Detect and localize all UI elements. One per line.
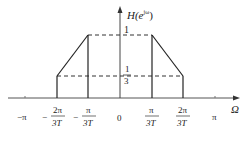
level-1-label: 1 [124,24,129,35]
tick-label-neg-2pi-3T-den: 3T [51,118,63,128]
tick-label-2pi-3T-den: 3T [176,118,188,128]
frequency-response-diagram: H(ejω) 1 1 3 Ω −π − 2π 3T − π 3T 0 π 3T … [0,0,245,146]
tick-label-pi: π [212,112,217,122]
tick-label-neg-pi-3T-num: π [86,105,91,115]
tick-label-neg-pi-3T-den: 3T [82,118,94,128]
tick-label-2pi-3T-num: 2π [178,105,188,115]
tick-label-pi-3T-num: π [149,105,154,115]
one-third-denominator: 3 [124,76,129,86]
tick-label-neg-2pi-3T-sign: − [42,112,47,122]
tick-label-neg-pi: −π [17,112,27,122]
slope-right [152,35,183,76]
tick-label-neg-2pi-3T-num: 2π [53,105,63,115]
slope-left [57,35,88,76]
y-axis-arrow-icon [118,6,123,13]
x-axis-label: Ω [231,103,239,115]
one-third-numerator: 1 [125,64,130,74]
x-axis-arrow-icon [233,96,240,101]
tick-label-neg-pi-3T-sign: − [73,112,78,122]
tick-label-zero: 0 [117,113,122,123]
tick-label-pi-3T-den: 3T [145,118,157,128]
y-axis-label: H(ejω) [126,9,153,22]
